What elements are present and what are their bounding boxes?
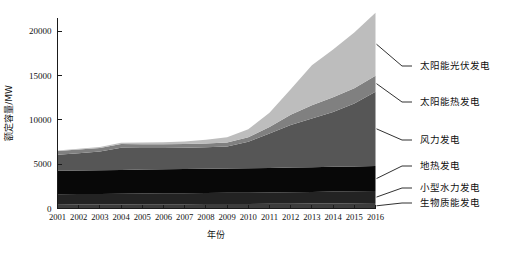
x-tick-label: 2002 <box>70 212 87 222</box>
x-tick-label: 2007 <box>176 212 194 222</box>
y-tick-label: 5000 <box>34 159 53 169</box>
legend-label: 太阳能光伏发电 <box>420 60 490 71</box>
chart-svg: 05000100001500020000 2001200220032004200… <box>0 0 510 254</box>
x-tick-label: 2005 <box>134 212 151 222</box>
y-axis-title: 额定容量/MW <box>3 85 14 141</box>
y-tick-label: 10000 <box>29 115 52 125</box>
x-tick-label: 2012 <box>282 212 299 222</box>
legend-label: 风力发电 <box>420 134 460 145</box>
y-tick-label: 15000 <box>29 71 52 81</box>
x-tick-label: 2014 <box>325 212 343 222</box>
x-tick-label: 2001 <box>49 212 66 222</box>
x-tick-label: 2006 <box>155 212 173 222</box>
x-tick-label: 2013 <box>303 212 320 222</box>
legend-label: 太阳能热发电 <box>420 96 480 107</box>
area-series-地热发电 <box>58 166 376 194</box>
stacked-area-chart: 05000100001500020000 2001200220032004200… <box>0 0 510 254</box>
legend-label: 小型水力发电 <box>420 182 480 193</box>
x-tick-label: 2016 <box>367 212 385 222</box>
legend-label: 生物质能发电 <box>420 197 480 208</box>
y-tick-label: 20000 <box>29 26 52 36</box>
x-tick-label: 2015 <box>346 212 363 222</box>
x-tick-label: 2004 <box>113 212 131 222</box>
x-tick-label: 2009 <box>219 212 236 222</box>
legend-label: 地热发电 <box>420 160 460 171</box>
x-tick-label: 2010 <box>240 212 257 222</box>
x-axis-title: 年份 <box>207 229 225 240</box>
x-tick-label: 2008 <box>197 212 214 222</box>
x-tick-label: 2003 <box>91 212 108 222</box>
x-tick-label: 2011 <box>261 212 278 222</box>
